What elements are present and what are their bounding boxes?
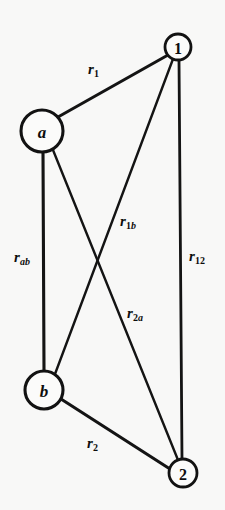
edge-group <box>43 55 182 469</box>
node-a-label: a <box>38 123 47 142</box>
edge-a-b <box>43 152 44 371</box>
edge-label-r12-sub: 12 <box>195 255 205 266</box>
edge-label-r1b-sub-alpha: b <box>131 220 136 231</box>
edge-1-b <box>55 59 173 374</box>
edge-a-1 <box>58 55 168 117</box>
node-1-label: 1 <box>174 40 182 57</box>
node-b-label: b <box>40 382 49 401</box>
edge-label-r1b: r1b <box>120 214 136 229</box>
edge-label-rab: rab <box>14 250 30 265</box>
edge-label-r1: r1 <box>88 62 99 77</box>
node-group: a b 1 2 <box>21 34 197 487</box>
edge-label-r2-sub: 2 <box>93 442 98 453</box>
edge-label-rab-sub: ab <box>20 256 30 267</box>
edge-2-a <box>53 150 178 460</box>
edge-label-r1-sub: 1 <box>94 68 99 79</box>
edge-label-r2a-sub-alpha: a <box>138 312 143 323</box>
edge-label-r2a: r2a <box>127 306 143 321</box>
diagram-figure: a b 1 2 r1 rab r1b r2a r12 r2 <box>0 0 225 510</box>
edge-b-2 <box>61 399 170 469</box>
node-2-label: 2 <box>179 466 187 483</box>
edge-label-r12: r12 <box>189 249 205 264</box>
edge-1-2 <box>179 60 182 459</box>
edge-label-r2: r2 <box>87 436 98 451</box>
